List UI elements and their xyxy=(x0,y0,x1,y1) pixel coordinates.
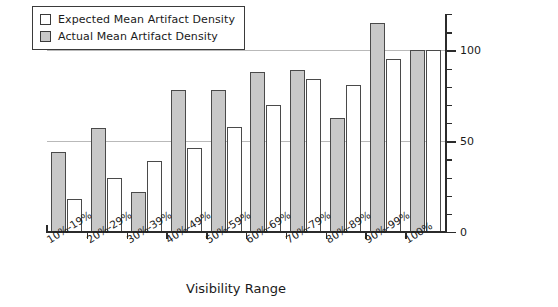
y-axis-ticks xyxy=(447,14,457,233)
y-axis-title: Percentage of Artifact Density at 100% V… xyxy=(489,0,517,10)
bar-actual xyxy=(171,90,186,232)
bar-actual xyxy=(250,72,265,232)
y-axis-minor-tick xyxy=(447,178,452,179)
bar-group xyxy=(365,14,405,232)
y-axis-major-tick xyxy=(447,232,456,233)
y-axis-major-tick xyxy=(447,50,456,51)
y-axis-title-line2: at 100% Visibility xyxy=(503,0,517,10)
bar-actual xyxy=(410,50,425,232)
y-axis-major-tick xyxy=(447,141,456,142)
y-axis-minor-tick xyxy=(447,196,452,197)
y-axis-minor-tick xyxy=(447,123,452,124)
bar-group xyxy=(405,14,445,232)
bar-expected xyxy=(346,85,361,232)
bar-group xyxy=(127,14,167,232)
bar-group xyxy=(166,14,206,232)
bar-actual xyxy=(330,118,345,232)
bar-series-container xyxy=(47,14,445,232)
bar-expected xyxy=(426,50,441,232)
bar-chart: Expected Mean Artifact Density Actual Me… xyxy=(0,0,558,307)
y-axis-tick-label: 0 xyxy=(460,227,467,238)
y-axis-minor-tick xyxy=(447,69,452,70)
bar-actual xyxy=(370,23,385,232)
bar-group xyxy=(246,14,286,232)
bar-group xyxy=(47,14,87,232)
bar-expected xyxy=(306,79,321,232)
y-axis-minor-tick xyxy=(447,105,452,106)
y-axis-minor-tick xyxy=(447,159,452,160)
bar-actual xyxy=(51,152,66,232)
bar-actual xyxy=(211,90,226,232)
y-axis-minor-tick xyxy=(447,87,452,88)
bar-actual xyxy=(290,70,305,232)
bar-group xyxy=(286,14,326,232)
y-axis-tick-label: 100 xyxy=(460,45,481,56)
bar-group xyxy=(87,14,127,232)
bar-group xyxy=(326,14,366,232)
x-axis-category-labels: 10%-19%20%-29%30%-39%40%-49%50%-59%60%-6… xyxy=(47,236,445,282)
y-axis-tick-label: 50 xyxy=(460,136,474,147)
y-axis-minor-tick xyxy=(447,214,452,215)
y-axis-minor-tick xyxy=(447,32,452,33)
y-axis-title-line1: Percentage of Artifact Density xyxy=(489,0,503,10)
y-axis-minor-tick xyxy=(447,14,452,15)
bar-expected xyxy=(386,59,401,232)
bar-group xyxy=(206,14,246,232)
bar-actual xyxy=(91,128,106,232)
x-axis-title: Visibility Range xyxy=(0,281,472,297)
